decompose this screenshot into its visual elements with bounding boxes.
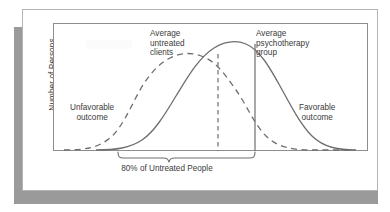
figure-card: Number of Persons Average untreated clie… (22, 9, 378, 191)
label-untreated-line-3: clients (150, 48, 185, 58)
label-psycho-line-1: Average (256, 29, 309, 39)
figure-root: Number of Persons Average untreated clie… (0, 0, 390, 212)
bracket-caption: 80% of Untreated People (72, 164, 262, 173)
label-unfavorable-outcome: Unfavorable outcome (70, 103, 114, 122)
bracket-region: 80% of Untreated People (53, 151, 368, 187)
label-untreated-line-2: untreated (150, 39, 185, 49)
curly-brace-icon (53, 151, 368, 165)
label-favorable-outcome: Favorable outcome (299, 103, 335, 122)
label-favorable-line-1: Favorable (299, 103, 335, 113)
distribution-curves-svg (54, 24, 369, 152)
curve-untreated-clients (64, 54, 354, 151)
label-average-psychotherapy-group: Average psychotherapy group (256, 29, 309, 58)
label-psycho-line-2: psychotherapy (256, 39, 309, 49)
label-unfavorable-line-2: outcome (70, 113, 114, 123)
label-favorable-line-2: outcome (299, 113, 335, 123)
label-average-untreated-clients: Average untreated clients (150, 29, 185, 58)
label-unfavorable-line-1: Unfavorable (70, 103, 114, 113)
plot-area: Average untreated clients Average psycho… (53, 23, 368, 151)
label-psycho-line-3: group (256, 48, 309, 58)
curve-psychotherapy-group (96, 42, 356, 150)
label-untreated-line-1: Average (150, 29, 185, 39)
